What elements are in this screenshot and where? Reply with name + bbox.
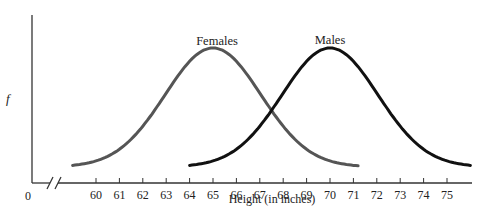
svg-text:72: 72 — [371, 188, 383, 202]
svg-text:61: 61 — [113, 188, 125, 202]
females-curve — [73, 48, 359, 166]
svg-text:73: 73 — [394, 188, 406, 202]
chart-canvas: 60616263646566676869707172737475 0 f Hei… — [0, 0, 494, 212]
svg-text:65: 65 — [207, 188, 219, 202]
origin-label: 0 — [25, 189, 31, 203]
svg-text:63: 63 — [160, 188, 172, 202]
svg-text:64: 64 — [184, 188, 196, 202]
svg-text:74: 74 — [418, 188, 430, 202]
y-axis-label: f — [6, 91, 12, 106]
x-axis-label: Height (in inches) — [229, 192, 316, 206]
svg-text:70: 70 — [324, 188, 336, 202]
svg-text:62: 62 — [137, 188, 149, 202]
males-label: Males — [315, 33, 346, 47]
females-label: Females — [196, 34, 238, 48]
svg-text:71: 71 — [347, 188, 359, 202]
svg-text:60: 60 — [90, 188, 102, 202]
svg-text:75: 75 — [441, 188, 453, 202]
males-curve — [190, 48, 471, 165]
